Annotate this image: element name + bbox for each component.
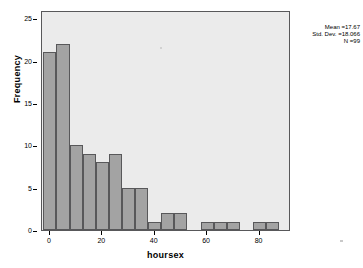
y-tick-label: 15	[24, 100, 32, 108]
histogram-bar	[43, 52, 56, 230]
scan-speck	[340, 240, 343, 242]
x-tick-mark	[206, 231, 207, 235]
x-tick-mark	[259, 231, 260, 235]
x-tick-mark	[49, 231, 50, 235]
histogram-bar	[227, 222, 240, 230]
histogram-bar	[96, 162, 109, 230]
statistics-annotation: Mean =17.67 Std. Dev. =18.066 N =99	[296, 24, 360, 45]
histogram-bar	[122, 188, 135, 230]
y-tick-label: 10	[24, 142, 32, 150]
y-tick-mark	[33, 189, 37, 190]
histogram-figure: Frequency 0510152025 hoursex 020406080 M…	[0, 0, 363, 268]
x-axis: hoursex 020406080	[0, 231, 363, 268]
plot-area	[42, 12, 289, 230]
y-tick-mark	[33, 104, 37, 105]
x-tick-label: 40	[142, 236, 166, 245]
x-tick-label: 80	[247, 236, 271, 245]
y-tick-mark	[33, 62, 37, 63]
histogram-bar	[109, 154, 122, 230]
histogram-bar	[174, 213, 187, 230]
histogram-bar	[201, 222, 214, 230]
histogram-bar	[56, 44, 69, 230]
x-tick-label: 0	[37, 236, 61, 245]
histogram-bar	[70, 145, 83, 230]
scan-speck	[160, 47, 162, 49]
y-tick-mark	[33, 146, 37, 147]
x-axis-title: hoursex	[41, 250, 290, 260]
y-tick-label: 5	[28, 185, 32, 193]
x-tick-label: 60	[194, 236, 218, 245]
y-tick-label: 20	[24, 58, 32, 66]
histogram-bar	[83, 154, 96, 230]
y-axis: Frequency 0510152025	[0, 0, 41, 268]
histogram-bar	[161, 213, 174, 230]
stat-n: N =99	[296, 38, 360, 45]
x-tick-mark	[101, 231, 102, 235]
x-tick-label: 20	[89, 236, 113, 245]
histogram-bar	[214, 222, 227, 230]
histogram-bar	[266, 222, 279, 230]
stat-std-dev: Std. Dev. =18.066	[296, 31, 360, 38]
histogram-bar	[135, 188, 148, 230]
y-tick-mark	[33, 19, 37, 20]
y-axis-title: Frequency	[12, 24, 22, 134]
stat-mean: Mean =17.67	[296, 24, 360, 31]
histogram-bar	[253, 222, 266, 230]
histogram-bar	[148, 222, 161, 230]
y-tick-label: 25	[24, 15, 32, 23]
plot-frame	[41, 11, 290, 231]
x-tick-mark	[154, 231, 155, 235]
